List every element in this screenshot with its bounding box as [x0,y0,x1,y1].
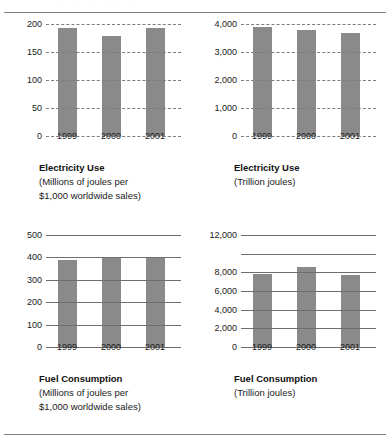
header-rule [4,12,386,13]
y-tick-label: 3,000 [214,48,237,57]
x-tick-label: 2000 [289,342,323,352]
y-tick-label: 6,000 [214,287,237,296]
y-tick-label: 100 [27,320,42,329]
footer-rule [4,434,386,435]
gridline [46,280,181,281]
y-tick-label: 2,000 [214,76,237,85]
chart-grid: 050100150200 199920002001 Electricity Us… [0,16,390,434]
bars-fuel-consumption-intensity [46,235,181,347]
gridline [241,272,376,273]
chart-page: . . . .. . 050100150200 199920002001 Ele… [0,0,390,444]
gridline [241,108,376,109]
gridline [46,24,181,25]
y-axis-electricity-use-intensity: 050100150200 [0,24,46,136]
gridline [46,257,181,258]
x-tick-label: 1999 [50,342,84,352]
y-tick-label: 2,000 [214,324,237,333]
y-tick-label: 0 [232,343,237,352]
y-tick-label: 12,000 [209,231,237,240]
x-tick-label: 2000 [94,342,128,352]
gridline [241,80,376,81]
y-tick-label: 500 [27,231,42,240]
chart-cell-fuel-consumption-intensity: 0100200300400500 199920002001 Fuel Consu… [0,227,195,434]
x-tick-label: 2001 [138,342,172,352]
gridline [241,24,376,25]
gridline [46,325,181,326]
chart-cell-electricity-use-absolute: 01,0002,0003,0004,000 199920002001 Elect… [195,16,390,227]
y-axis-fuel-consumption-intensity: 0100200300400500 [0,235,46,347]
gridline [241,254,376,255]
y-tick-label: 4,000 [214,20,237,29]
gridline [241,310,376,311]
y-axis-electricity-use-absolute: 01,0002,0003,0004,000 [195,24,241,136]
x-tick-label: 1999 [245,131,279,141]
chart-subtitle-line: $1,000 worldwide sales) [39,400,189,414]
chart-title: Electricity Use [234,161,384,175]
gridline [46,80,181,81]
y-tick-label: 0 [232,132,237,141]
chart-title: Fuel Consumption [39,372,189,386]
gridline [241,235,376,236]
chart-title: Electricity Use [39,161,189,175]
caption-electricity-use-intensity: Electricity Use (Millions of joules per … [39,161,189,202]
x-tick-label: 2001 [333,131,367,141]
chart-subtitle-line: (Trillion joules) [234,175,384,189]
y-tick-label: 4,000 [214,305,237,314]
y-tick-label: 0 [37,132,42,141]
x-axis-fuel-consumption-intensity: 199920002001 [46,342,181,354]
plot-electricity-use-absolute [241,24,376,136]
y-tick-label: 8,000 [214,268,237,277]
y-tick-label: 1,000 [214,104,237,113]
gridline [241,291,376,292]
gridline [241,328,376,329]
x-axis-electricity-use-absolute: 199920002001 [241,131,376,143]
bar [297,30,316,136]
gridline [46,302,181,303]
bar [253,27,272,136]
x-tick-label: 2001 [333,342,367,352]
y-tick-label: 200 [27,298,42,307]
x-axis-fuel-consumption-absolute: 199920002001 [241,342,376,354]
x-axis-electricity-use-intensity: 199920002001 [46,131,181,143]
plot-electricity-use-intensity [46,24,181,136]
bar [341,275,360,347]
y-tick-label: 400 [27,253,42,262]
x-tick-label: 2000 [289,131,323,141]
y-tick-label: 300 [27,275,42,284]
bar [146,28,165,136]
y-axis-fuel-consumption-absolute: 02,0004,0006,0008,00012,000 [195,235,241,347]
gridline [46,108,181,109]
chart-subtitle-line: (Millions of joules per [39,386,189,400]
chart-title: Fuel Consumption [234,372,384,386]
y-tick-label: 150 [27,48,42,57]
bar [341,33,360,136]
chart-cell-fuel-consumption-absolute: 02,0004,0006,0008,00012,000 199920002001… [195,227,390,434]
x-tick-label: 2001 [138,131,172,141]
chart-cell-electricity-use-intensity: 050100150200 199920002001 Electricity Us… [0,16,195,227]
bar [297,267,316,347]
y-tick-label: 50 [32,104,42,113]
gridline [241,52,376,53]
caption-fuel-consumption-absolute: Fuel Consumption (Trillion joules) [234,372,384,400]
gridline [46,52,181,53]
bar [58,260,77,347]
x-tick-label: 1999 [245,342,279,352]
chart-subtitle-line: (Millions of joules per [39,175,189,189]
chart-subtitle-line: $1,000 worldwide sales) [39,189,189,203]
x-tick-label: 1999 [50,131,84,141]
gridline [46,235,181,236]
chart-subtitle-line: (Trillion joules) [234,386,384,400]
bar [58,28,77,136]
plot-fuel-consumption-intensity [46,235,181,347]
y-tick-label: 200 [27,20,42,29]
caption-electricity-use-absolute: Electricity Use (Trillion joules) [234,161,384,189]
plot-fuel-consumption-absolute [241,235,376,347]
caption-fuel-consumption-intensity: Fuel Consumption (Millions of joules per… [39,372,189,413]
y-tick-label: 100 [27,76,42,85]
y-tick-label: 0 [37,343,42,352]
clipped-text-remnant: . . . .. . [60,0,330,7]
x-tick-label: 2000 [94,131,128,141]
